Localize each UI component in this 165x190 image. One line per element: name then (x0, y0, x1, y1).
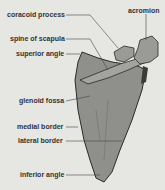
coracoid-shape (114, 46, 134, 62)
label-glenoid-fossa: glenoid fossa (19, 97, 64, 105)
label-superior-angle: superior angle (16, 50, 64, 58)
scapula-illustration (0, 0, 165, 190)
label-medial-border: medial border (17, 123, 63, 131)
label-acromion: acromion (128, 7, 160, 15)
label-coracoid-process: coracoid process (7, 11, 65, 19)
leader-coracoid-process (66, 15, 118, 48)
acromion-shape (134, 36, 158, 64)
label-lateral-border: lateral border (18, 137, 63, 145)
label-inferior-angle: inferior angle (20, 171, 64, 179)
scapula-diagram: coracoid process acromion spine of scapu… (0, 0, 165, 190)
label-spine-of-scapula: spine of scapula (10, 35, 65, 43)
